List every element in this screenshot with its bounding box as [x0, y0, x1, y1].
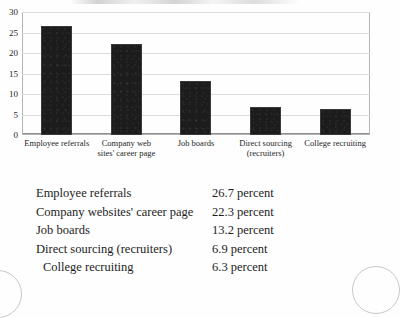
- bar-slot: [23, 12, 91, 135]
- table-row-label: Company websites' career page: [36, 203, 212, 222]
- x-axis-label-2: Company websites' career page: [92, 138, 160, 158]
- table-row-value: 13.2 percent: [212, 221, 274, 240]
- x-axis-label-line: Job boards: [162, 138, 230, 148]
- y-axis-tick-label: 25: [0, 29, 18, 38]
- bar-3: [180, 81, 211, 135]
- x-axis-label-line: Company web: [92, 138, 160, 148]
- x-axis-label-line: Employee referrals: [23, 138, 91, 148]
- table-row-label: Job boards: [36, 221, 212, 240]
- y-axis-tick-label: 30: [0, 8, 18, 17]
- bar-2: [111, 44, 142, 135]
- table-row-value: 22.3 percent: [212, 203, 274, 222]
- y-axis-tick-label: 10: [0, 90, 18, 99]
- x-axis-label-4: Direct sourcing(recruiters): [231, 138, 299, 158]
- page-scan-artifact-top: [70, 0, 300, 4]
- table-row-label: Direct sourcing (recruiters): [36, 240, 212, 259]
- x-axis-label-5: College recruiting: [301, 138, 369, 158]
- table-row: Company websites' career page22.3 percen…: [36, 203, 346, 222]
- table-row-value: 6.3 percent: [212, 258, 268, 277]
- table-row: Job boards13.2 percent: [36, 221, 346, 240]
- x-axis-labels: Employee referralsCompany websites' care…: [22, 138, 370, 158]
- table-row-label: Employee referrals: [36, 184, 212, 203]
- table-row-label: College recruiting: [36, 258, 212, 277]
- table-row-value: 26.7 percent: [212, 184, 274, 203]
- bar-4: [250, 107, 281, 135]
- x-axis-label-line: sites' career page: [92, 148, 160, 158]
- table-row: College recruiting6.3 percent: [36, 258, 346, 277]
- bar-slot: [92, 12, 160, 135]
- table-row: Direct sourcing (recruiters)6.9 percent: [36, 240, 346, 259]
- y-axis-tick-label: 15: [0, 70, 18, 79]
- bar-slot: [301, 12, 369, 135]
- y-axis-tick-label: 20: [0, 49, 18, 58]
- bar-chart: 302520151050 Employee referralsCompany w…: [0, 6, 380, 161]
- y-axis-tick-label: 5: [0, 111, 18, 120]
- bar-series: [22, 12, 370, 135]
- table-row-value: 6.9 percent: [212, 240, 268, 259]
- data-table: Employee referrals26.7 percentCompany we…: [36, 184, 346, 277]
- y-axis-tick-label: 0: [0, 131, 18, 140]
- x-axis-label-line: College recruiting: [301, 138, 369, 148]
- bar-1: [41, 26, 72, 135]
- page-edge-arc-left: [0, 270, 22, 318]
- bar-slot: [231, 12, 299, 135]
- bar-5: [320, 109, 351, 135]
- x-axis-label-line: (recruiters): [231, 148, 299, 158]
- page-edge-arc-right: [352, 266, 400, 314]
- bar-slot: [162, 12, 230, 135]
- table-row: Employee referrals26.7 percent: [36, 184, 346, 203]
- x-axis-label-1: Employee referrals: [23, 138, 91, 158]
- x-axis-label-line: Direct sourcing: [231, 138, 299, 148]
- x-axis-label-3: Job boards: [162, 138, 230, 158]
